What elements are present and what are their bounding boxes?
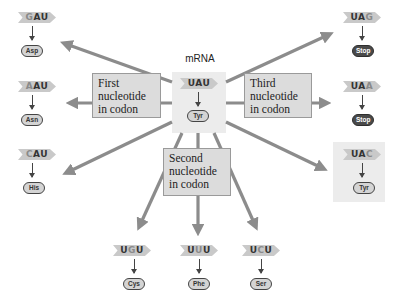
nucleotide: A xyxy=(33,12,40,22)
translation-arrow-icon xyxy=(362,95,363,109)
nucleotide: U xyxy=(40,81,48,91)
codon-tag-cau: CAU xyxy=(18,149,56,160)
second-nucleotide-label: Second nucleotide in codon xyxy=(163,148,231,196)
stop-pill: Stop xyxy=(352,45,374,57)
codon-tag-uuu: UUU xyxy=(180,245,218,256)
label-line: in codon xyxy=(98,103,155,116)
nucleotide: C xyxy=(26,149,33,159)
amino-acid-pill-center: Tyr xyxy=(187,110,209,122)
translation-arrow-icon xyxy=(199,259,200,273)
amino-acid-pill-ser: Ser xyxy=(250,278,272,290)
codon-letters: UAA xyxy=(349,81,375,92)
codon-tag-uac: UAC xyxy=(343,149,381,160)
translation-arrow-icon xyxy=(261,259,262,273)
mrna-label: mRNA xyxy=(180,53,220,64)
arrow-to-cau xyxy=(68,122,172,172)
nucleotide: U xyxy=(195,245,203,255)
codon-tag-uag: UAG xyxy=(343,12,381,23)
codon-letters: CAU xyxy=(24,149,50,160)
translation-arrow-icon xyxy=(32,95,33,109)
label-line: First xyxy=(98,77,155,90)
nucleotide: A xyxy=(358,12,365,22)
label-line: nucleotide xyxy=(169,165,225,178)
amino-acid-pill-his: His xyxy=(23,182,45,194)
codon-letters: UAC xyxy=(349,149,375,160)
first-nucleotide-label: First nucleotide in codon xyxy=(92,73,161,118)
label-line: in codon xyxy=(169,178,225,191)
codon-letters: AAU xyxy=(24,81,50,92)
translation-arrow-icon xyxy=(362,26,363,40)
amino-acid-pill-tyr: Tyr xyxy=(353,182,375,194)
nucleotide: U xyxy=(120,245,128,255)
nucleotide: A xyxy=(358,81,365,91)
translation-arrow-icon xyxy=(198,92,199,106)
codon-tag-uaa: UAA xyxy=(343,81,381,92)
nucleotide: U xyxy=(187,245,195,255)
codon-tag-ugu: UGU xyxy=(113,245,151,256)
nucleotide: U xyxy=(265,245,273,255)
amino-acid-pill-cys: Cys xyxy=(123,278,145,290)
translation-arrow-icon xyxy=(32,163,33,177)
codon-letters: UUU xyxy=(186,245,212,256)
amino-acid-pill-asn: Asn xyxy=(21,114,43,126)
nucleotide: U xyxy=(41,12,49,22)
nucleotide: G xyxy=(128,245,136,255)
codon-letters: UAU xyxy=(186,78,212,89)
stop-pill: Stop xyxy=(352,114,374,126)
codon-letters: UAG xyxy=(349,12,375,23)
translation-arrow-icon xyxy=(362,163,363,177)
arrow-to-uac xyxy=(226,122,322,168)
nucleotide: U xyxy=(136,245,144,255)
nucleotide: C xyxy=(257,245,264,255)
label-line: nucleotide xyxy=(98,90,155,103)
codon-tag-gau: GAU xyxy=(18,12,56,23)
nucleotide: A xyxy=(366,81,373,91)
nucleotide: U xyxy=(351,12,359,22)
third-nucleotide-label: Third nucleotide in codon xyxy=(244,73,312,118)
amino-acid-pill-asp: Asp xyxy=(21,45,43,57)
label-line: nucleotide xyxy=(250,90,306,103)
amino-acid-pill-phe: Phe xyxy=(188,278,210,290)
codon-letters: GAU xyxy=(24,12,50,23)
codon-tag-center: UAU xyxy=(180,78,218,89)
label-line: in codon xyxy=(250,103,306,116)
nucleotide: U xyxy=(202,78,210,88)
nucleotide: A xyxy=(358,149,365,159)
nucleotide: U xyxy=(40,149,48,159)
nucleotide: C xyxy=(366,149,373,159)
codon-tag-aau: AAU xyxy=(18,81,56,92)
label-line: Third xyxy=(250,77,306,90)
codon-letters: UCU xyxy=(248,245,274,256)
translation-arrow-icon xyxy=(32,26,33,40)
nucleotide: U xyxy=(203,245,211,255)
codon-letters: UGU xyxy=(119,245,145,256)
codon-tag-ucu: UCU xyxy=(242,245,280,256)
translation-arrow-icon xyxy=(134,259,135,273)
nucleotide: G xyxy=(366,12,374,22)
label-line: Second xyxy=(169,152,225,165)
codon-mutation-diagram: First nucleotide in codon Third nucleoti… xyxy=(0,0,397,303)
